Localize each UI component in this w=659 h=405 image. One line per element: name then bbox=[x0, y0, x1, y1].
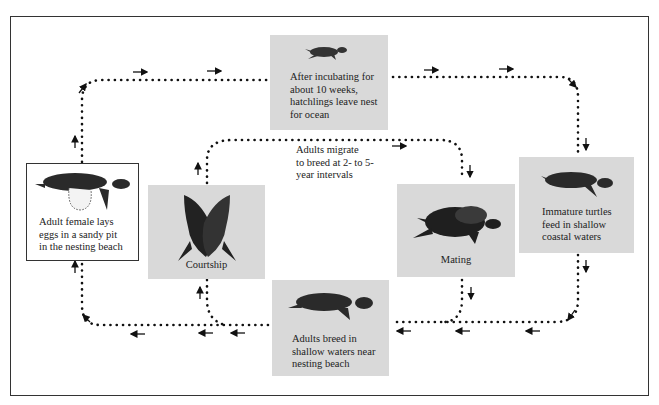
stage-breed: Adults breed in shallow waters near nest… bbox=[272, 280, 389, 376]
hatchlings-text: After incubating for about 10 weeks, hat… bbox=[290, 71, 386, 121]
text-line: year intervals bbox=[296, 169, 396, 182]
text-line: Immature turtles bbox=[542, 206, 632, 219]
stage-mating: Mating bbox=[397, 184, 515, 277]
text-line: Mating bbox=[397, 254, 515, 267]
nesting-turtle-with-eggs-icon bbox=[33, 170, 133, 214]
stage-courtship: Courtship bbox=[148, 185, 265, 279]
stage-hatchlings: After incubating for about 10 weeks, hat… bbox=[270, 35, 388, 130]
text-line: shallow waters near bbox=[292, 346, 388, 359]
text-line: about 10 weeks, bbox=[290, 84, 386, 97]
immature-text: Immature turtles feed in shallow coastal… bbox=[542, 206, 632, 244]
nesting-text: Adult female lays eggs in a sandy pit in… bbox=[39, 216, 139, 254]
text-line: After incubating for bbox=[290, 71, 386, 84]
migration-note: Adults migrate to breed at 2- to 5- year… bbox=[296, 144, 396, 182]
courtship-turtles-icon bbox=[170, 191, 244, 263]
hatchling-turtle-icon bbox=[304, 43, 350, 61]
mating-turtle-icon bbox=[411, 198, 503, 246]
text-line: to breed at 2- to 5- bbox=[296, 157, 396, 170]
text-line: hatchlings leave nest bbox=[290, 96, 386, 109]
immature-turtle-icon bbox=[539, 167, 617, 201]
text-line: for ocean bbox=[290, 109, 386, 122]
text-line: feed in shallow bbox=[542, 219, 632, 232]
text-line: eggs in a sandy pit bbox=[39, 229, 139, 242]
text-line: in the nesting beach bbox=[39, 241, 139, 254]
courtship-text: Courtship bbox=[148, 259, 265, 272]
text-line: Adults breed in bbox=[292, 333, 388, 346]
text-line: Adults migrate bbox=[296, 144, 396, 157]
text-line: Courtship bbox=[148, 259, 265, 272]
breed-text: Adults breed in shallow waters near nest… bbox=[292, 333, 388, 371]
stage-nesting: Adult female lays eggs in a sandy pit in… bbox=[26, 163, 139, 261]
text-line: nesting beach bbox=[292, 358, 388, 371]
mating-text: Mating bbox=[397, 254, 515, 267]
stage-immature: Immature turtles feed in shallow coastal… bbox=[519, 157, 634, 253]
text-line: coastal waters bbox=[542, 231, 632, 244]
text-line: Adult female lays bbox=[39, 216, 139, 229]
breeding-turtle-icon bbox=[286, 288, 376, 324]
